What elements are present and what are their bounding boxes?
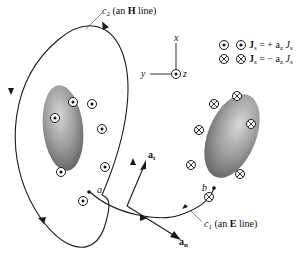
axis-x-label: x (174, 33, 178, 43)
arrow-c1-end (182, 204, 188, 209)
arrow-c2-left (8, 88, 14, 95)
vector-at (127, 166, 144, 206)
c1-label: c1 (an E line) (204, 219, 257, 231)
vector-at-head (140, 160, 146, 170)
c1-leader (191, 211, 202, 222)
conductor-a (39, 83, 88, 173)
c2-label: c2 (an H line) (102, 6, 156, 18)
axis-z-label: z (183, 69, 187, 79)
point-a (87, 190, 91, 194)
point-b-label: b (202, 183, 207, 193)
vector-an (127, 206, 175, 236)
arrow-c2-top (98, 21, 109, 31)
vector-at-label: at (148, 150, 155, 162)
arrow-c2-inner (130, 158, 136, 165)
conductor-b (193, 86, 270, 186)
vector-an-label: an (179, 237, 188, 249)
point-b (212, 186, 216, 190)
legend-row-positive: Js = + az Js (249, 40, 293, 52)
axis-y-label: y (141, 69, 145, 79)
legend-row-negative: Js = − az Js (249, 54, 293, 66)
point-a-label: a (97, 185, 102, 195)
